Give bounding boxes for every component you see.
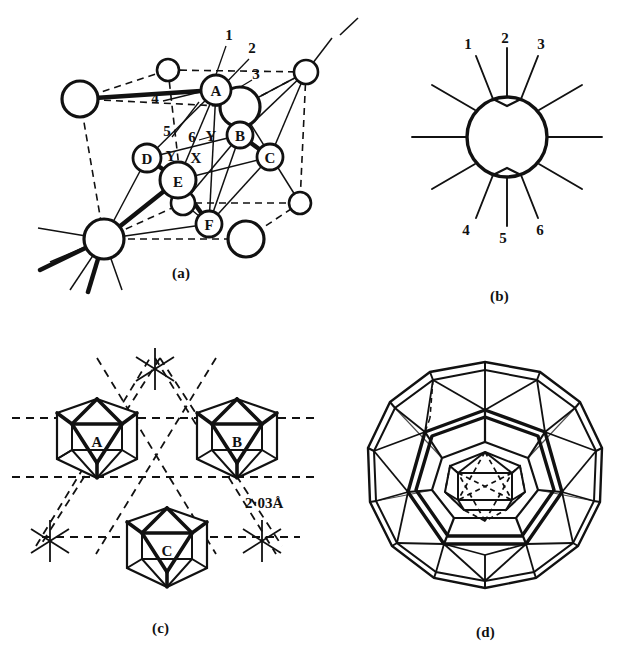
atom-label-b: B xyxy=(235,128,245,144)
icosahedron-a: A xyxy=(57,399,137,478)
atom-circle xyxy=(157,59,179,81)
icosahedron-circle xyxy=(467,97,547,177)
distance-label: 2·03Å xyxy=(245,495,284,511)
atom-label-c: C xyxy=(265,150,276,166)
panel-a-svg: A B C D E F 1 2 3 4 5 6 xyxy=(0,0,340,300)
panel-c-svg: A xyxy=(0,330,330,665)
axis-label-y1: Y xyxy=(206,128,217,144)
panel-label-b: (b) xyxy=(490,288,509,305)
bond-number-1: 1 xyxy=(225,27,233,43)
bond-number-6: 6 xyxy=(536,222,544,238)
panel-label-a: (a) xyxy=(172,265,190,282)
icosahedron-b: B xyxy=(197,399,277,478)
panel-b-stray-line xyxy=(340,18,358,35)
atom-circle xyxy=(62,81,98,117)
panel-label-c: (c) xyxy=(152,620,169,637)
atom-label-f: F xyxy=(204,217,213,233)
icosahedron-label-c: C xyxy=(162,543,173,559)
icosahedron-label-b: B xyxy=(232,434,242,450)
atom-circle xyxy=(289,192,311,214)
bond-number-6: 6 xyxy=(188,129,196,145)
figure-root: A B C D E F 1 2 3 4 5 6 xyxy=(0,0,637,665)
bond-number-3: 3 xyxy=(252,66,260,82)
panel-d xyxy=(340,340,637,665)
icosahedron-c: C xyxy=(127,508,207,587)
bond-number-1: 1 xyxy=(464,36,472,52)
panel-d-svg xyxy=(340,340,637,665)
axis-label-y2: Y xyxy=(166,148,177,164)
panel-c: A xyxy=(0,330,330,665)
bond-number-2: 2 xyxy=(501,30,509,46)
bond-number-5: 5 xyxy=(499,230,507,246)
panel-a: A B C D E F 1 2 3 4 5 6 xyxy=(0,0,340,300)
bond-number-5: 5 xyxy=(163,123,171,139)
panel-b-svg: 1 2 3 4 5 6 xyxy=(340,0,637,300)
axis-label-x: X xyxy=(191,150,202,166)
panel-b-icosahedron-outline xyxy=(467,97,547,177)
icosahedron-label-a: A xyxy=(92,434,103,450)
panel-label-d: (d) xyxy=(476,624,495,641)
atom-circle xyxy=(294,60,318,84)
bond-number-2: 2 xyxy=(248,40,256,56)
bond-number-3: 3 xyxy=(537,36,545,52)
atom-label-d: D xyxy=(142,151,153,167)
atom-circle xyxy=(228,221,264,257)
panel-b: 1 2 3 4 5 6 (b) xyxy=(340,0,637,300)
atom-circle xyxy=(84,219,124,259)
atom-label-a: A xyxy=(211,83,222,99)
bond-number-4: 4 xyxy=(151,90,159,106)
atom-label-e: E xyxy=(173,174,183,190)
bond-number-4: 4 xyxy=(462,222,470,238)
